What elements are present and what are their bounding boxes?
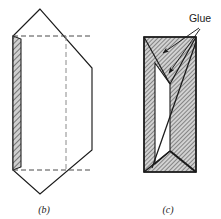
caption-b: (b) — [38, 204, 50, 216]
figure-container: (b) (c) Glue — [0, 0, 221, 219]
caption-c: (c) — [162, 204, 174, 216]
prism-figure-svg: (b) (c) Glue — [0, 0, 221, 219]
glue-strip-hatched — [13, 36, 21, 170]
glue-label: Glue — [189, 12, 211, 24]
